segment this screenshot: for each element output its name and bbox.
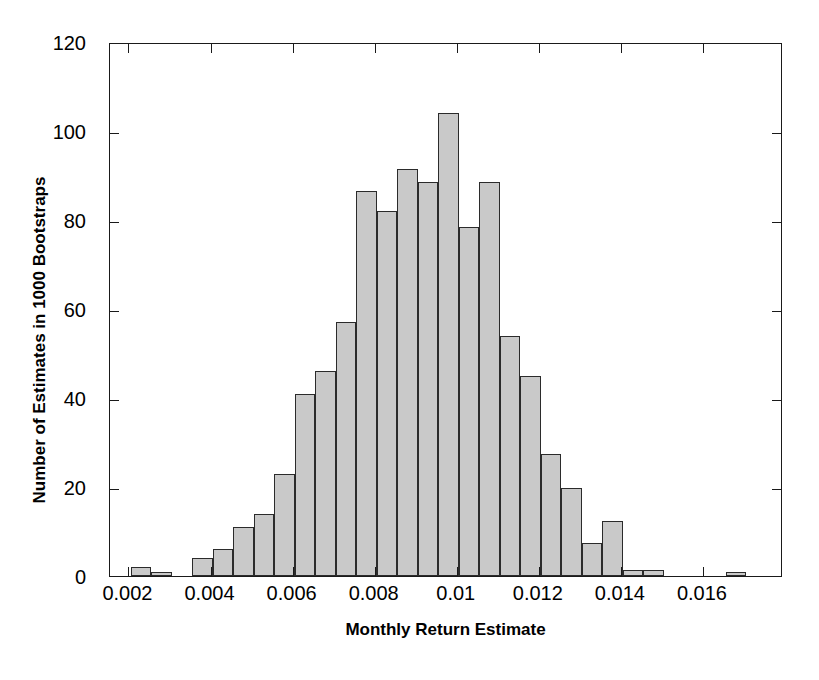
x-tick-mark-top <box>457 44 458 53</box>
y-tick-mark <box>110 222 119 223</box>
histogram-bar <box>254 514 275 576</box>
y-tick-mark-right <box>772 311 781 312</box>
x-axis-tick-labels: 0.0020.0040.0060.0080.010.0120.0140.016 <box>109 582 782 614</box>
plot-area <box>109 43 782 577</box>
histogram-bar <box>377 211 398 576</box>
x-tick-label: 0.004 <box>185 582 235 605</box>
histogram-bar <box>418 182 439 576</box>
y-tick-label: 60 <box>64 299 86 322</box>
histogram-bar <box>459 227 480 576</box>
y-tick-mark-right <box>772 133 781 134</box>
histogram-bar <box>643 570 664 576</box>
x-tick-mark-top <box>621 44 622 53</box>
y-tick-label: 40 <box>64 388 86 411</box>
histogram-bar <box>315 371 336 576</box>
histogram-bar <box>295 394 316 576</box>
histogram-bar <box>561 488 582 576</box>
y-tick-mark-right <box>772 400 781 401</box>
y-tick-mark-right <box>772 222 781 223</box>
x-tick-mark-top <box>375 44 376 53</box>
x-tick-mark <box>703 567 704 576</box>
x-tick-mark <box>457 567 458 576</box>
histogram-bar <box>336 322 357 576</box>
histogram-bar <box>726 572 747 576</box>
histogram-bar <box>356 191 377 576</box>
x-tick-label: 0.016 <box>677 582 727 605</box>
histogram-bar <box>192 558 213 576</box>
x-tick-mark-top <box>539 44 540 53</box>
y-tick-label: 0 <box>75 566 86 589</box>
x-tick-label: 0.002 <box>102 582 152 605</box>
x-axis-label: Monthly Return Estimate <box>109 620 782 640</box>
histogram-bar <box>213 549 234 576</box>
y-axis-tick-labels: 020406080100120 <box>0 43 100 577</box>
x-tick-mark <box>128 567 129 576</box>
y-tick-label: 20 <box>64 477 86 500</box>
histogram-bar <box>131 567 152 576</box>
x-tick-label: 0.014 <box>595 582 645 605</box>
histogram-bar <box>397 169 418 576</box>
x-tick-label: 0.01 <box>436 582 475 605</box>
x-tick-mark-top <box>293 44 294 53</box>
histogram-bar <box>500 336 521 576</box>
histogram-bars <box>110 44 781 576</box>
y-tick-mark-right <box>772 489 781 490</box>
x-tick-mark-top <box>211 44 212 53</box>
histogram-bar <box>151 572 172 576</box>
x-tick-mark-top <box>128 44 129 53</box>
y-tick-label: 120 <box>53 32 86 55</box>
histogram-bar <box>582 543 603 576</box>
histogram-figure: Number of Estimates in 1000 Bootstraps 0… <box>0 0 819 680</box>
x-tick-mark <box>621 567 622 576</box>
histogram-bar <box>602 521 623 576</box>
y-tick-label: 80 <box>64 210 86 233</box>
x-tick-mark-top <box>703 44 704 53</box>
histogram-bar <box>479 182 500 576</box>
y-tick-mark <box>110 311 119 312</box>
x-tick-label: 0.012 <box>513 582 563 605</box>
histogram-bar <box>274 474 295 576</box>
x-tick-mark <box>293 567 294 576</box>
histogram-bar <box>520 376 541 576</box>
y-tick-mark <box>110 133 119 134</box>
x-tick-mark <box>375 567 376 576</box>
y-tick-label: 100 <box>53 121 86 144</box>
x-tick-label: 0.006 <box>267 582 317 605</box>
histogram-bar <box>233 527 254 576</box>
x-tick-mark <box>539 567 540 576</box>
x-tick-mark <box>211 567 212 576</box>
x-tick-label: 0.008 <box>349 582 399 605</box>
histogram-bar <box>438 113 459 576</box>
histogram-bar <box>541 454 562 576</box>
histogram-bar <box>623 570 644 576</box>
y-tick-mark <box>110 400 119 401</box>
y-tick-mark <box>110 489 119 490</box>
